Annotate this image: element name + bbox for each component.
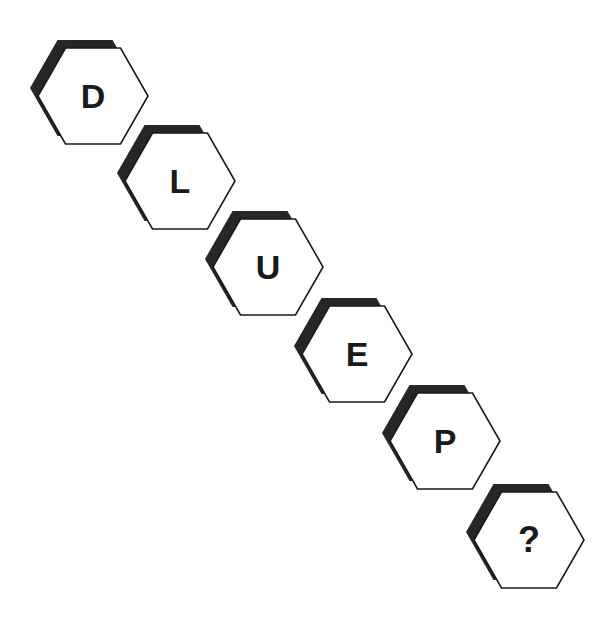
hexagon-tile-unknown[interactable]: ? xyxy=(466,484,584,588)
hexagon-tile[interactable]: P xyxy=(382,385,500,489)
hexagon-face-icon xyxy=(466,484,592,596)
puzzle-stage: D L U E P xyxy=(0,0,606,629)
hexagon-face-icon xyxy=(382,385,508,497)
